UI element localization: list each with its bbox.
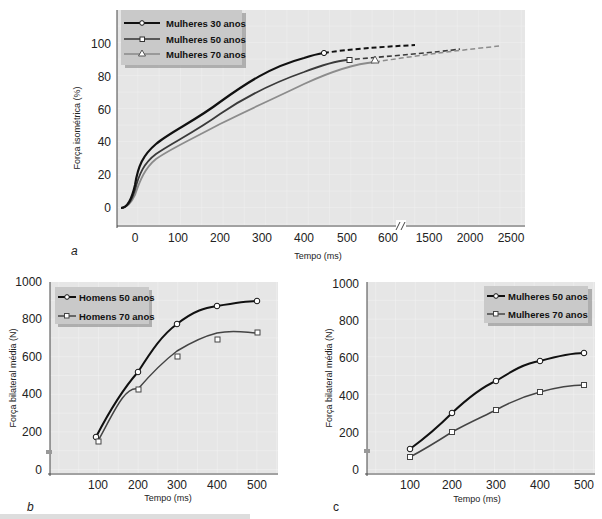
axis-break-marker-icon (46, 450, 52, 454)
x-tick: 100 (400, 478, 420, 492)
caption-strip-cutoff (0, 514, 250, 519)
x-tick: 400 (207, 478, 227, 492)
panel-label-b: b (27, 500, 34, 514)
x-tick: 400 (294, 231, 314, 245)
chart-b-legend: Homens 50 anos Homens 70 anos (55, 287, 155, 327)
marker-circle-icon (321, 50, 326, 55)
x-tick: 200 (128, 478, 148, 492)
y-tick: 0 (352, 463, 359, 477)
chart-b-x-label: Tempo (ms) (144, 493, 192, 503)
y-tick: 200 (339, 426, 359, 440)
x-tick: 0 (132, 231, 139, 245)
x-tick: 500 (574, 478, 594, 492)
x-tick: 2000 (457, 231, 484, 245)
legend-label: Homens 50 anos (79, 292, 155, 303)
chart-b-y-ticks: 0 200 400 600 800 1000 (15, 275, 42, 477)
y-tick: 0 (104, 201, 111, 215)
axis-break-marker-icon (364, 449, 370, 453)
y-tick: 80 (98, 70, 112, 84)
chart-c-y-ticks: 0 200 400 600 800 1000 (332, 277, 359, 477)
chart-a-y-label: Força isométrica (%) (72, 86, 82, 169)
y-tick: 200 (22, 425, 42, 439)
chart-a-legend: Mulheres 30 anos Mulheres 50 anos Mulher… (121, 10, 246, 68)
chart-b-y-label: Força bilateral média (N) (8, 328, 18, 427)
x-tick: 300 (486, 478, 506, 492)
y-tick: 1000 (332, 277, 359, 291)
y-tick: 60 (98, 103, 112, 117)
legend-label: Mulheres 70 anos (166, 49, 246, 60)
x-tick: 400 (530, 478, 550, 492)
x-tick: 200 (442, 478, 462, 492)
chart-c: 0 200 400 600 800 1000 100 200 300 400 5… (324, 277, 595, 514)
x-tick: 2500 (498, 231, 525, 245)
chart-a-x-ticks: 0 100 200 300 400 500 600 1500 2000 2500 (132, 231, 525, 245)
x-tick: 100 (168, 231, 188, 245)
chart-a-x-label: Tempo (ms) (294, 251, 342, 261)
chart-b-x-ticks: 100 200 300 400 500 (88, 478, 267, 492)
y-tick: 600 (339, 351, 359, 365)
x-tick: 100 (88, 478, 108, 492)
chart-c-y-label: Força bilateral média (N) (324, 328, 334, 427)
x-tick: 300 (167, 478, 187, 492)
y-tick: 1000 (15, 275, 42, 289)
x-tick: 200 (210, 231, 230, 245)
chart-b: 0 200 400 600 800 1000 100 200 300 400 5… (8, 275, 278, 514)
panel-label-a: a (71, 244, 78, 258)
panel-label-c: c (333, 500, 339, 514)
chart-a-y-ticks: 0 20 40 60 80 100 (91, 37, 111, 215)
y-tick: 400 (339, 389, 359, 403)
y-tick: 800 (339, 314, 359, 328)
y-tick: 20 (98, 168, 112, 182)
chart-c-x-ticks: 100 200 300 400 500 (400, 478, 594, 492)
x-tick: 1500 (416, 231, 443, 245)
legend-label: Homens 70 anos (79, 311, 155, 322)
legend-label: Mulheres 50 anos (508, 291, 588, 302)
chart-c-x-label: Tempo (ms) (453, 494, 501, 504)
legend-label: Mulheres 50 anos (166, 34, 246, 45)
marker-square-icon (347, 58, 352, 63)
y-tick: 100 (91, 37, 111, 51)
legend-label: Mulheres 70 anos (508, 309, 588, 320)
x-tick: 500 (247, 478, 267, 492)
chart-a: 0 20 40 60 80 100 0 100 200 300 400 500 … (71, 10, 525, 261)
y-tick: 40 (98, 135, 112, 149)
figure: 0 20 40 60 80 100 0 100 200 300 400 500 … (0, 0, 602, 519)
chart-c-legend: Mulheres 50 anos Mulheres 70 anos (484, 286, 592, 326)
y-tick: 0 (35, 463, 42, 477)
x-tick: 500 (337, 231, 357, 245)
x-tick: 600 (378, 231, 398, 245)
legend-label: Mulheres 30 anos (166, 18, 246, 29)
y-tick: 800 (22, 312, 42, 326)
x-tick: 300 (252, 231, 272, 245)
y-tick: 400 (22, 387, 42, 401)
y-tick: 600 (22, 350, 42, 364)
